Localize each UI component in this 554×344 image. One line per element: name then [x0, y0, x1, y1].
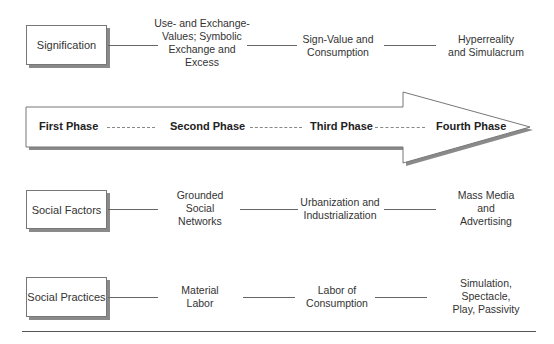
social-factors-label: Social Factors [32, 204, 102, 216]
row3-node-1: Material Labor [160, 284, 240, 310]
connector [240, 209, 298, 210]
phase-first: First Phase [39, 120, 98, 132]
row2-node-2: Urbanization and Industrialization [292, 196, 388, 222]
phase-divider [107, 127, 155, 128]
social-practices-box: Social Practices [26, 277, 107, 317]
row2-node-3: Mass Media and Advertising [434, 189, 538, 228]
connector [243, 297, 295, 298]
connector [384, 209, 436, 210]
bottom-rule [22, 331, 536, 332]
phase-second: Second Phase [170, 120, 245, 132]
social-practices-label: Social Practices [27, 291, 105, 303]
phase-fourth: Fourth Phase [436, 120, 506, 132]
phase-divider [375, 127, 425, 128]
connector [108, 297, 158, 298]
connector [108, 209, 158, 210]
row3-node-2: Labor of Consumption [292, 284, 382, 310]
row2-node-1: Grounded Social Networks [160, 189, 240, 228]
phase-third: Third Phase [310, 120, 373, 132]
row3-node-3: Simulation, Spectacle, Play, Passivity [434, 277, 538, 316]
social-factors-box: Social Factors [26, 190, 107, 229]
phase-divider [250, 127, 302, 128]
connector [375, 297, 427, 298]
